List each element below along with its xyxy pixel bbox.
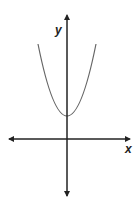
x-axis-label: x [124,142,133,156]
graph-canvas: y x [0,0,137,201]
parabola-graph: y x [0,0,137,201]
y-axis-label: y [54,23,63,37]
